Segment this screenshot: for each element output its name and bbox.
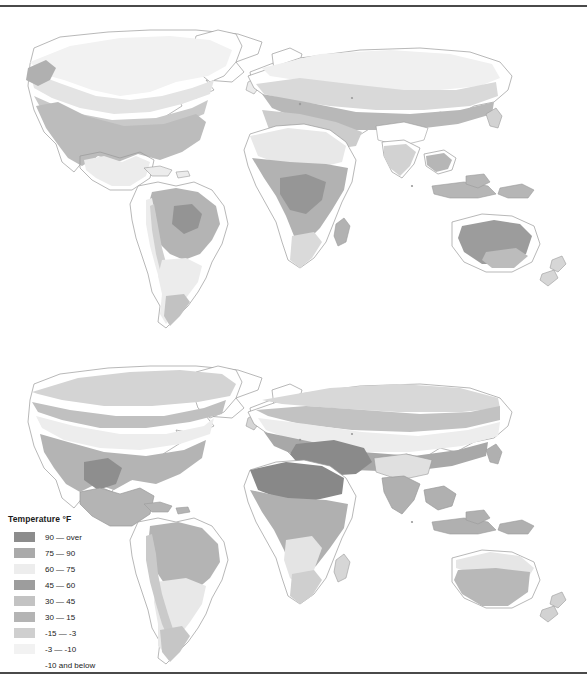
january-map-svg <box>0 10 587 340</box>
legend-title: Temperature °F <box>8 514 126 524</box>
island-dot <box>351 433 353 435</box>
legend-swatch <box>14 564 35 574</box>
legend-swatch <box>14 548 35 558</box>
caribbean-outline <box>144 166 172 176</box>
hispaniola-outline <box>176 171 190 178</box>
newguinea-outline-jul <box>498 520 534 534</box>
legend-swatch <box>14 580 35 590</box>
legend-row: 30 — 45 <box>6 593 126 609</box>
top-rule <box>0 5 587 7</box>
india-band <box>384 144 416 176</box>
legend-row: -3 — -10 <box>6 641 126 657</box>
japan-outline-jul <box>486 444 502 464</box>
newguinea-outline <box>498 184 534 198</box>
legend-label: 90 — over <box>45 533 82 542</box>
legend-label: 30 — 45 <box>45 597 75 606</box>
legend-row: 30 — 15 <box>6 609 126 625</box>
newzealand-south-outline-jul <box>540 606 558 622</box>
legend-row: -15 — -3 <box>6 625 126 641</box>
africa-band-jul-south <box>290 570 322 604</box>
atlas-page: Temperature °F 90 — over75 — 9060 — 7545… <box>0 0 587 686</box>
mexico-band <box>84 156 150 186</box>
legend-row: 75 — 90 <box>6 545 126 561</box>
legend-label: 75 — 90 <box>45 549 75 558</box>
island-dot <box>411 185 413 187</box>
newzealand-outline-jul <box>550 592 566 608</box>
legend-label: -10 and below <box>45 661 95 670</box>
sa-band-south-45-60 <box>164 294 190 326</box>
legend-label: -15 — -3 <box>45 629 76 638</box>
madagascar-outline-jul <box>334 554 350 582</box>
island-dot <box>411 521 413 523</box>
legend-label: 30 — 15 <box>45 613 75 622</box>
india-outline-jul <box>382 476 420 514</box>
legend-swatch <box>14 612 35 622</box>
indonesia-outline <box>432 182 496 198</box>
legend-swatch <box>14 628 35 638</box>
newzealand-south-outline <box>540 270 558 286</box>
island-dot <box>299 103 301 105</box>
legend-label: -3 — -10 <box>45 645 76 654</box>
newzealand-outline <box>550 256 566 272</box>
legend-swatch <box>14 596 35 606</box>
legend-rows: 90 — over75 — 9060 — 7545 — 6030 — 4530 … <box>6 529 126 673</box>
legend-swatch <box>14 644 35 654</box>
legend-row: 45 — 60 <box>6 577 126 593</box>
island-dot <box>299 439 301 441</box>
temperature-legend: Temperature °F 90 — over75 — 9060 — 7545… <box>6 514 126 673</box>
legend-row: -10 and below <box>6 657 126 673</box>
legend-label: 45 — 60 <box>45 581 75 590</box>
january-temperature-map <box>0 10 587 340</box>
legend-row: 90 — over <box>6 529 126 545</box>
sea-outline-jul <box>424 486 456 510</box>
legend-swatch <box>14 532 35 542</box>
indonesia-outline-jul <box>432 518 496 534</box>
island-dot <box>351 97 353 99</box>
hispaniola-outline-jul <box>176 507 190 514</box>
madagascar-outline <box>334 218 350 246</box>
legend-label: 60 — 75 <box>45 565 75 574</box>
legend-row: 60 — 75 <box>6 561 126 577</box>
legend-swatch <box>14 660 35 670</box>
